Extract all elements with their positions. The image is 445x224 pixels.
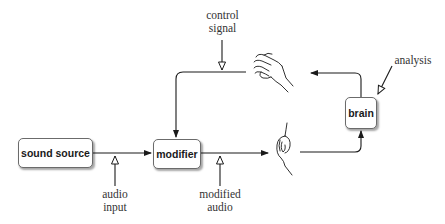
control-signal-label: control signal (200, 9, 245, 35)
modified-audio-line1: modified (195, 188, 245, 201)
audio-input-line2: input (95, 201, 135, 214)
audio-input-line1: audio (95, 188, 135, 201)
control-signal-line1: control (200, 9, 245, 22)
sound-source-label: sound source (21, 147, 90, 159)
edge-hand-to-modifier (176, 72, 246, 137)
analysis-label: analysis (391, 54, 435, 67)
edge-ear-to-brain (300, 131, 361, 152)
modified-audio-label: modified audio (195, 188, 245, 214)
brain-node: brain (345, 97, 377, 129)
brain-label: brain (348, 107, 374, 119)
audio-input-label: audio input (95, 188, 135, 214)
diagram-canvas: sound source modifier brain control sign… (0, 0, 445, 224)
control-signal-line2: signal (200, 22, 245, 35)
hand-icon (254, 53, 293, 92)
edge-brain-to-hand (311, 73, 361, 97)
modifier-label: modifier (156, 148, 197, 160)
modifier-node: modifier (153, 139, 201, 169)
analysis-text: analysis (394, 54, 431, 66)
modified-audio-line2: audio (195, 201, 245, 214)
sound-source-node: sound source (18, 138, 93, 168)
analysis-pointer (378, 66, 392, 94)
ear-icon (277, 123, 292, 175)
